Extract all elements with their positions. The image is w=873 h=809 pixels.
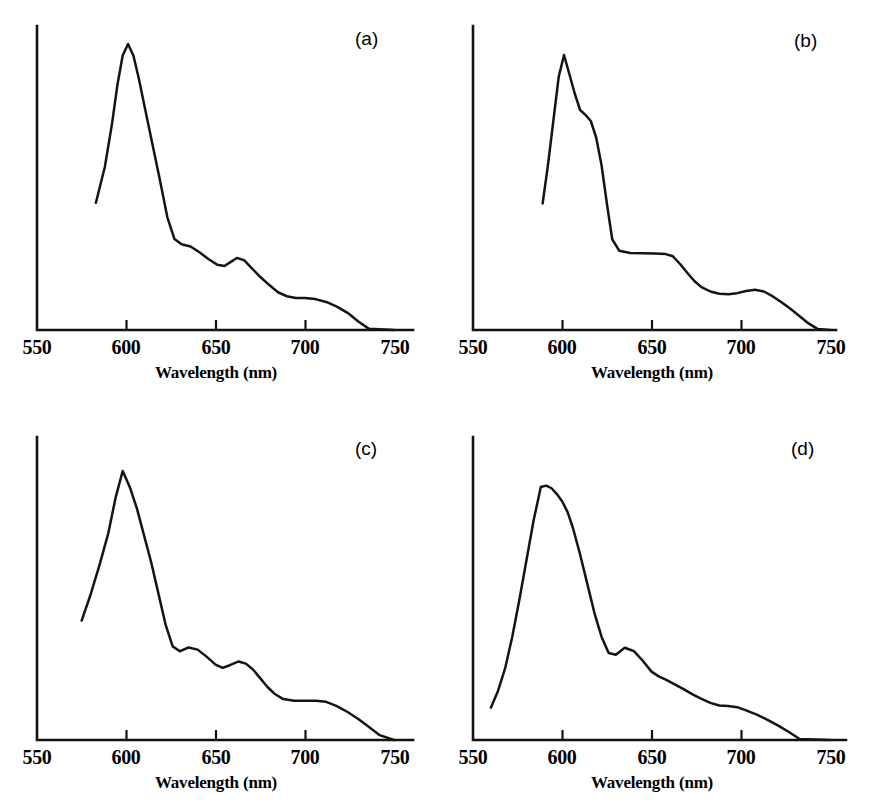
figure-root: (a) 550 600 650 700 750 Wavelength (nm) … [0, 0, 873, 809]
x-tick-label-600-a: 600 [111, 336, 140, 359]
x-tick-label-650-a: 650 [201, 336, 230, 359]
x-tick-label-750-c: 750 [380, 746, 409, 769]
x-tick-label-600-c: 600 [111, 746, 140, 769]
spectrum-panel-b: (b) 550 600 650 700 750 Wavelength (nm) [436, 0, 873, 404]
spectrum-curve-b [543, 55, 830, 330]
x-tick-label-550-c: 550 [22, 746, 51, 769]
plot-axes-b [473, 26, 836, 330]
spectrum-panel-c: (c) 550 600 650 700 750 Wavelength (nm) [0, 405, 437, 809]
x-tick-label-550-a: 550 [22, 336, 51, 359]
x-tick-label-750-a: 750 [380, 336, 409, 359]
x-tick-label-750-d: 750 [816, 746, 845, 769]
x-axis-title-d: Wavelength (nm) [591, 773, 713, 793]
x-tick-label-700-d: 700 [726, 746, 755, 769]
spectrum-curve-a [96, 44, 394, 330]
x-tick-label-700-b: 700 [726, 336, 755, 359]
panel-label-d: (d) [791, 438, 814, 460]
x-axis-title-c: Wavelength (nm) [155, 773, 277, 793]
plot-axes-d [473, 437, 846, 740]
panel-label-b: (b) [794, 30, 817, 52]
spectrum-panel-d: (d) 550 600 650 700 750 Wavelength (nm) [436, 405, 873, 809]
x-tick-label-700-c: 700 [290, 746, 319, 769]
spectrum-panel-a: (a) 550 600 650 700 750 Wavelength (nm) [0, 0, 437, 404]
panel-label-a: (a) [355, 28, 378, 50]
x-tick-label-650-b: 650 [637, 336, 666, 359]
x-axis-title-a: Wavelength (nm) [155, 363, 277, 383]
x-tick-label-650-d: 650 [637, 746, 666, 769]
x-tick-label-700-a: 700 [290, 336, 319, 359]
x-tick-label-650-c: 650 [201, 746, 230, 769]
x-tick-label-600-d: 600 [547, 746, 576, 769]
spectrum-curve-c [82, 471, 394, 740]
panel-label-c: (c) [355, 438, 377, 460]
x-tick-label-750-b: 750 [816, 336, 845, 359]
plot-axes-a [37, 26, 413, 330]
x-tick-label-550-b: 550 [458, 336, 487, 359]
x-tick-label-550-d: 550 [458, 746, 487, 769]
spectrum-curve-d [491, 486, 830, 740]
x-tick-label-600-b: 600 [547, 336, 576, 359]
x-axis-title-b: Wavelength (nm) [591, 363, 713, 383]
